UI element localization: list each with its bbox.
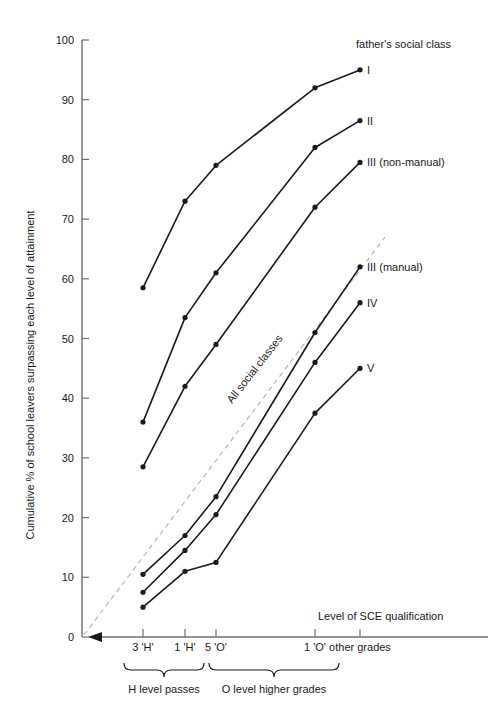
y-tick-label: 10 [62,571,74,583]
data-point [357,366,362,371]
series-label-1: I [367,64,370,76]
y-tick-label: 20 [62,512,74,524]
data-point [213,494,218,499]
y-tick-label: 100 [56,34,74,46]
y-tick-label: 40 [62,392,74,404]
data-point [213,342,218,347]
series-label-4: III (manual) [367,261,423,273]
x-tick-label: 1 'H' [174,641,195,653]
data-point [312,145,317,150]
data-point [140,572,145,577]
data-point [140,590,145,595]
data-point [213,163,218,168]
legend-title: father's social class [356,38,452,50]
y-tick-label: 70 [62,213,74,225]
data-point [182,315,187,320]
data-point [182,199,187,204]
y-tick-label: 90 [62,94,74,106]
data-point [357,264,362,269]
data-point [357,160,362,165]
data-point [213,560,218,565]
data-point [312,330,317,335]
y-tick-label: 0 [68,631,74,643]
data-point [140,605,145,610]
x-tick-label: 5 'O' [205,641,227,653]
y-tick-label: 30 [62,452,74,464]
data-point [140,464,145,469]
y-tick-label: 60 [62,273,74,285]
series-label-5: IV [367,297,378,309]
data-point [312,205,317,210]
data-point [213,270,218,275]
data-point [182,569,187,574]
data-point [182,533,187,538]
data-point [182,384,187,389]
data-point [357,300,362,305]
o-level-brace-label: O level higher grades [222,683,327,695]
data-point [213,512,218,517]
chart-background [0,0,494,715]
data-point [140,419,145,424]
data-point [357,118,362,123]
data-point [312,85,317,90]
attainment-line-chart: 0102030405060708090100 3 'H'1 'H'5 'O'1 … [0,0,494,715]
x-tick-label: other grades [329,641,391,653]
chart-container: 0102030405060708090100 3 'H'1 'H'5 'O'1 … [0,0,494,715]
x-axis-title: Level of SCE qualification [318,610,443,622]
series-label-3: III (non-manual) [367,156,445,168]
series-label-6: V [367,362,375,374]
x-tick-label: 1 'O' [304,641,326,653]
x-tick-label: 3 'H' [132,641,153,653]
data-point [357,67,362,72]
data-point [140,285,145,290]
h-level-brace-label: H level passes [128,683,200,695]
y-tick-label: 50 [62,333,74,345]
series-label-2: II [367,115,373,127]
y-axis-title: Cumulative % of school leavers surpassin… [24,211,36,540]
y-tick-label: 80 [62,153,74,165]
data-point [312,411,317,416]
data-point [312,360,317,365]
data-point [182,548,187,553]
